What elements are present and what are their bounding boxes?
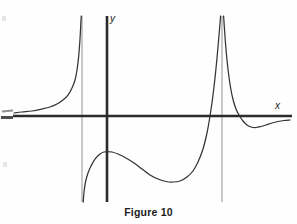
scan-artifact-top-left — [2, 16, 6, 21]
function-graph-plot: x y — [0, 0, 297, 224]
y-axis-label: y — [109, 13, 116, 24]
middle-branch-curve — [83, 16, 220, 202]
x-axis-label: x — [274, 100, 281, 111]
left-branch-curve — [14, 16, 81, 113]
axes-group — [13, 16, 292, 202]
scan-artifact-mid-left-lower — [1, 116, 13, 119]
curve-group — [14, 16, 290, 202]
figure-caption: Figure 10 — [0, 206, 297, 218]
figure-container: x y Figure 10 — [0, 0, 297, 224]
vertical-asymptote-group — [82, 16, 222, 202]
scan-artifact-lower-left — [3, 162, 7, 167]
right-branch-curve — [224, 16, 290, 128]
